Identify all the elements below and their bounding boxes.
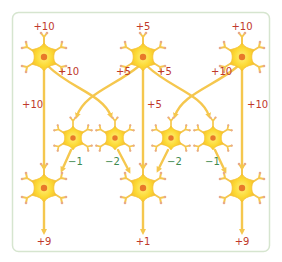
cross-label-right: +10 bbox=[211, 66, 232, 77]
direct-label-right: +10 bbox=[247, 99, 268, 110]
input-label-right: +10 bbox=[231, 21, 252, 32]
output-label-right: +9 bbox=[235, 236, 250, 247]
output-label-left: +9 bbox=[37, 236, 52, 247]
inhibition-label-2: −2 bbox=[105, 156, 120, 167]
lateral-inhibition-diagram: +10 +5 +10 +10 +5 +5 +10 +10 +5 +10 +9 +… bbox=[0, 0, 282, 262]
cross-label-left: +10 bbox=[58, 66, 79, 77]
direct-label-left: +10 bbox=[22, 99, 43, 110]
input-label-left: +10 bbox=[33, 21, 54, 32]
inhibition-label-1: −1 bbox=[68, 156, 83, 167]
input-label-middle: +5 bbox=[136, 21, 151, 32]
cross-label-middle-right: +5 bbox=[157, 66, 172, 77]
inhibition-label-3: −2 bbox=[167, 156, 182, 167]
direct-label-middle: +5 bbox=[147, 99, 162, 110]
cross-label-middle-left: +5 bbox=[116, 66, 131, 77]
output-label-middle: +1 bbox=[136, 236, 151, 247]
inhibition-label-4: −1 bbox=[205, 156, 220, 167]
